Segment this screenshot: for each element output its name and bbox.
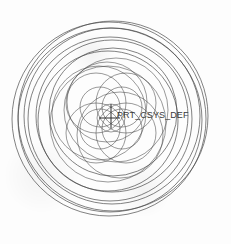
sketch-circle bbox=[80, 87, 120, 127]
sketch-geometry-canvas bbox=[0, 0, 231, 244]
sketch-circle bbox=[80, 109, 120, 149]
csys-label: PRT_CSYS_DEF bbox=[117, 110, 189, 120]
sketch-circle bbox=[102, 87, 142, 127]
cad-viewport[interactable]: PRT_CSYS_DEF bbox=[0, 0, 231, 244]
sketch-circle bbox=[18, 28, 202, 212]
